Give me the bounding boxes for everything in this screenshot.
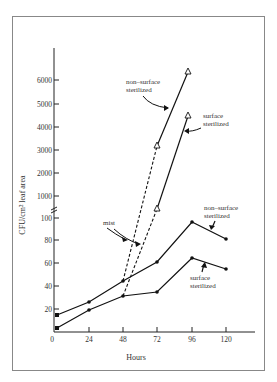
series-non-surface-lower [55, 220, 228, 317]
svg-text:3000: 3000 [37, 146, 52, 155]
svg-text:surface: surface [190, 274, 210, 282]
x-tick-labels: 0 24 48 72 96 120 [50, 335, 232, 344]
y-tick-labels: 6000 5000 4000 3000 2000 1000 100 80 60 … [37, 76, 52, 314]
svg-text:sterilized: sterilized [203, 120, 229, 128]
svg-text:48: 48 [119, 335, 127, 344]
svg-text:72: 72 [153, 335, 161, 344]
svg-text:40: 40 [45, 282, 53, 291]
y-axis-title: CFU/cm² leaf area [18, 175, 27, 235]
svg-text:sterilized: sterilized [204, 212, 230, 220]
svg-text:80: 80 [45, 236, 53, 245]
triangle-marker-icon [185, 68, 191, 74]
svg-text:non–surface: non–surface [126, 78, 160, 86]
svg-text:20: 20 [45, 305, 53, 314]
svg-text:60: 60 [45, 259, 53, 268]
svg-text:5000: 5000 [37, 100, 52, 109]
x-axis-title: Hours [126, 353, 146, 362]
svg-text:4000: 4000 [37, 123, 52, 132]
triangle-marker-icon [154, 142, 160, 148]
svg-text:96: 96 [188, 335, 196, 344]
axes [51, 48, 255, 332]
svg-text:0: 0 [50, 335, 54, 344]
series-non-surface-mist [123, 68, 191, 281]
annotations: non–surface sterilized surface sterilize… [103, 78, 238, 290]
svg-text:sterilized: sterilized [126, 86, 152, 94]
triangle-marker-icon [154, 205, 160, 211]
svg-text:24: 24 [85, 335, 93, 344]
svg-text:non–surface: non–surface [204, 204, 238, 212]
series-surface-lower [55, 256, 228, 330]
svg-text:6000: 6000 [37, 76, 52, 85]
line-chart: 6000 5000 4000 3000 2000 1000 100 80 60 … [0, 0, 277, 382]
svg-text:100: 100 [41, 214, 53, 223]
svg-text:sterilized: sterilized [190, 282, 216, 290]
triangle-marker-icon [185, 112, 191, 118]
svg-text:120: 120 [220, 335, 232, 344]
svg-text:1000: 1000 [37, 192, 52, 201]
svg-text:surface: surface [203, 112, 223, 120]
svg-text:mist: mist [103, 219, 115, 227]
svg-text:2000: 2000 [37, 169, 52, 178]
